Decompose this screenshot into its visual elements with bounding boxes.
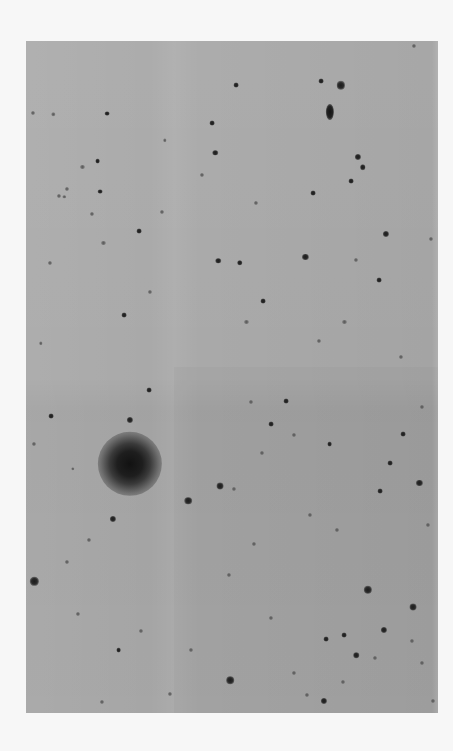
star xyxy=(116,647,121,652)
star xyxy=(377,278,382,283)
star xyxy=(401,432,406,437)
star xyxy=(212,150,218,156)
star xyxy=(269,422,274,427)
star xyxy=(319,79,324,84)
star xyxy=(342,633,347,638)
star xyxy=(233,83,238,88)
star xyxy=(105,111,110,116)
star xyxy=(378,489,383,494)
star xyxy=(49,414,54,419)
star xyxy=(95,159,100,164)
star xyxy=(324,637,329,642)
star xyxy=(226,676,234,684)
plate-exposure-quadrant xyxy=(174,367,438,713)
star xyxy=(237,260,243,266)
star xyxy=(217,482,224,489)
star xyxy=(136,229,141,234)
star xyxy=(310,190,315,195)
star xyxy=(284,399,289,404)
star xyxy=(410,603,417,610)
star xyxy=(353,652,359,658)
star xyxy=(98,189,103,194)
large-diffuse-galaxy xyxy=(98,432,162,496)
star xyxy=(349,178,354,183)
star xyxy=(216,258,222,264)
star xyxy=(388,461,393,466)
star xyxy=(122,313,127,318)
star xyxy=(210,121,215,126)
star xyxy=(360,165,366,171)
star xyxy=(146,388,151,393)
plate-edge xyxy=(432,41,438,713)
sky-plate-image xyxy=(26,41,438,713)
star xyxy=(260,299,265,304)
star xyxy=(327,442,332,447)
star xyxy=(184,497,192,505)
